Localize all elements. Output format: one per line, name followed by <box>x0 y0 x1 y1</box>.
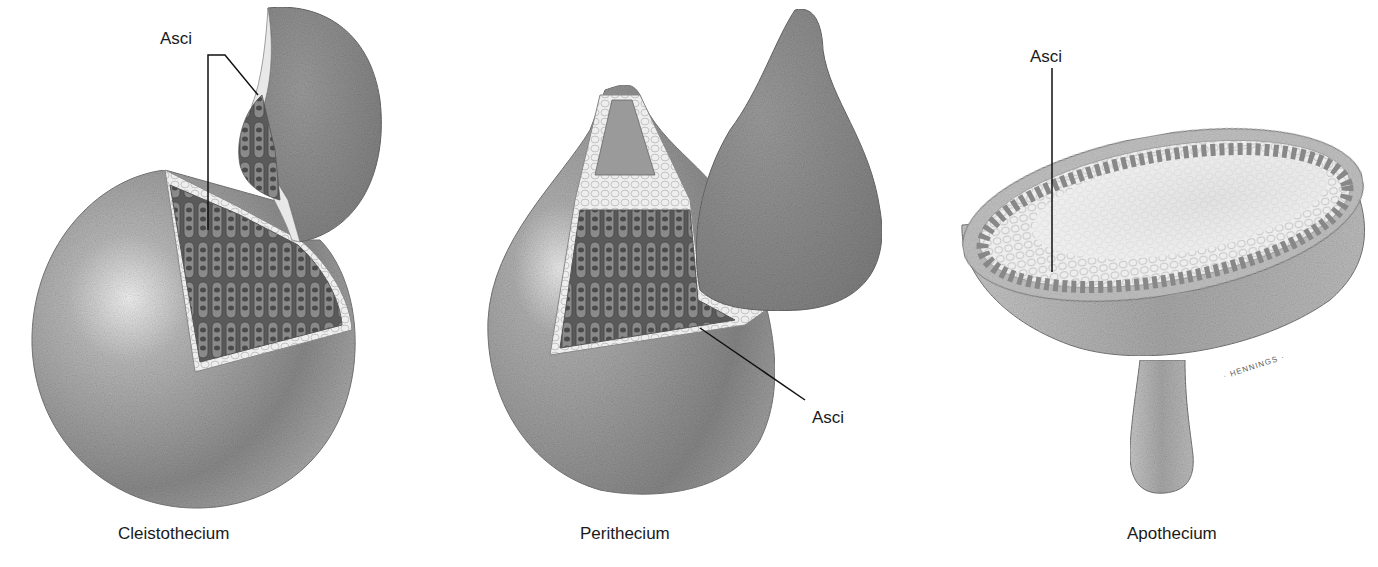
illustration-canvas <box>0 0 1378 567</box>
apothecium-illustration <box>949 68 1377 493</box>
asci-label-cleistothecium: Asci <box>160 29 192 49</box>
caption-cleistothecium: Cleistothecium <box>118 524 230 544</box>
caption-apothecium: Apothecium <box>1127 524 1217 544</box>
asci-label-apothecium: Asci <box>1030 47 1062 67</box>
cleistothecium-illustration <box>32 7 381 508</box>
ascocarp-types-figure: Asci Asci Asci Cleistothecium Peritheciu… <box>0 0 1378 567</box>
asci-label-perithecium: Asci <box>812 408 844 428</box>
caption-perithecium: Perithecium <box>580 524 670 544</box>
